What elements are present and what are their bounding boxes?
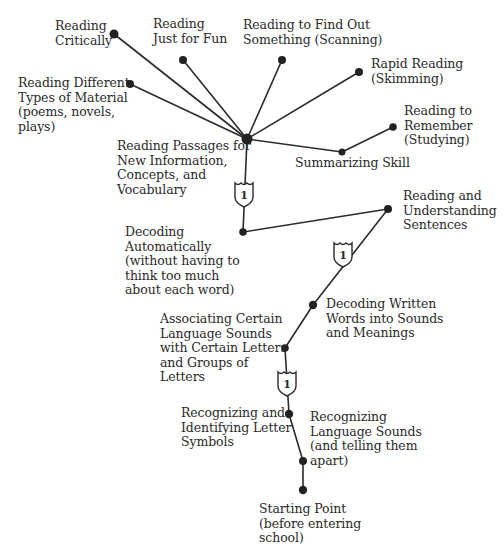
node-starting-point (299, 486, 307, 494)
label-passages: Reading Passages for New Information, Co… (117, 139, 251, 197)
edge-summarizing-to-remember (342, 127, 393, 152)
node-decoding-written (309, 301, 317, 309)
node-remember (389, 123, 397, 131)
label-different-types: Reading Different Types of Material (poe… (18, 76, 130, 134)
label-remember: Reading to Remember (Studying) (404, 104, 473, 148)
edge-passages-to-find-out (247, 60, 282, 139)
label-reading-critically: Reading Critically (55, 19, 112, 48)
edge-passages-to-fun (183, 60, 247, 139)
label-summarizing: Summarizing Skill (295, 156, 410, 171)
label-rapid-reading: Rapid Reading (Skimming) (371, 57, 463, 86)
route-marker-label: 1 (339, 249, 347, 262)
node-language-sounds (299, 457, 307, 465)
label-decoding-auto: Decoding Automatically (without having t… (125, 225, 240, 298)
edge-passages-to-summarizing (247, 139, 342, 152)
label-associating: Associating Certain Language Sounds with… (160, 312, 287, 385)
label-language-sounds: Recognizing Language Sounds (and telling… (310, 410, 422, 468)
label-decoding-written: Decoding Written Words into Sounds and M… (326, 297, 443, 341)
edge-sentences-to-decoding-auto (243, 209, 388, 232)
edge-associating-to-decoding-written (285, 305, 313, 348)
edge-passages-to-rapid (247, 72, 359, 139)
route-shield-icon: 1 (334, 243, 352, 267)
label-find-out: Reading to Find Out Something (Scanning) (243, 18, 382, 47)
label-sentences: Reading and Understanding Sentences (403, 189, 497, 233)
node-find-out (278, 56, 286, 64)
node-just-for-fun (179, 56, 187, 64)
node-rapid-reading (355, 68, 363, 76)
label-starting-point: Starting Point (before entering school) (259, 502, 361, 546)
label-letter-symbols: Recognizing and Identifying Letter Symbo… (181, 406, 291, 450)
node-decoding-auto (239, 228, 247, 236)
node-sentences (384, 205, 392, 213)
label-just-for-fun: Reading Just for Fun (153, 17, 227, 46)
